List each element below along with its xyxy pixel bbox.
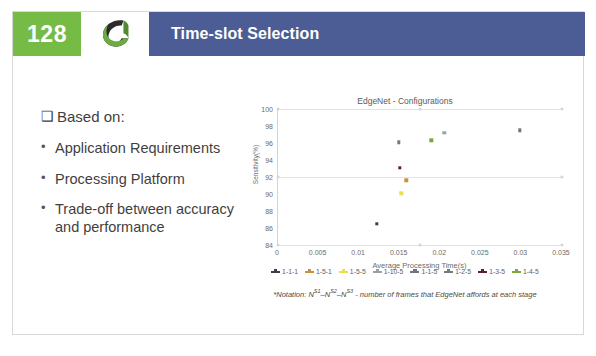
footnote: *Notation: NS1–NS2–NS3 - number of frame… (237, 288, 573, 299)
title-bar: Time-slot Selection (149, 12, 585, 56)
y-tick-label: 94 (265, 157, 273, 164)
legend-swatch-icon (444, 271, 453, 273)
list-item: • Application Requirements (41, 139, 237, 157)
legend-swatch-icon (512, 271, 521, 273)
legend-swatch-icon (373, 271, 382, 273)
legend-item[interactable]: 1-2-5 (444, 268, 471, 275)
data-point (375, 222, 378, 225)
y-tick-label: 86 (265, 225, 273, 232)
page-title: Time-slot Selection (149, 25, 319, 43)
legend-label: 1-10-5 (384, 268, 404, 275)
legend-item[interactable]: 1-4-5 (512, 268, 539, 275)
chart-title: EdgeNet - Configurations (237, 96, 573, 106)
legend-label: 1-1-5 (421, 268, 437, 275)
dot-bullet-icon: • (41, 200, 55, 217)
x-tick-label: 0.02 (432, 249, 446, 256)
axis-marker (277, 108, 280, 111)
legend-label: 1-2-5 (455, 268, 471, 275)
axis-marker (561, 108, 564, 111)
axis-marker (561, 244, 564, 247)
footnote-dash-2: –N (337, 290, 347, 299)
axis-marker (277, 244, 280, 247)
legend-swatch-icon (271, 271, 280, 273)
legend-label: 1-1-1 (282, 268, 298, 275)
data-point (400, 191, 403, 194)
footnote-suffix: - number of frames that EdgeNet affords … (353, 290, 536, 299)
y-tick-label: 92 (265, 174, 273, 181)
x-tick-label: 0.03 (514, 249, 528, 256)
legend-marker-icon (308, 269, 311, 272)
x-axis-ticks: 00.0050.010.0150.020.0250.030.035 (277, 249, 562, 261)
legend-swatch-icon (305, 271, 314, 273)
data-point (518, 129, 521, 132)
slide-number-badge: 128 (13, 12, 81, 56)
legend-item[interactable]: 1-5-5 (339, 268, 366, 275)
legend-label: 1-3-5 (489, 268, 505, 275)
legend-label: 1-5-1 (316, 268, 332, 275)
bullet-list: ❑ Based on: • Application Requirements •… (41, 108, 237, 248)
legend-marker-icon (515, 269, 518, 272)
x-tick-label: 0 (275, 249, 279, 256)
slide-header: 128 Time-slot Selection (13, 12, 585, 56)
data-point (398, 166, 401, 169)
logo-container (81, 12, 149, 56)
axis-marker (419, 108, 422, 111)
list-item: • Trade-off between accuracy and perform… (41, 200, 237, 237)
lead-bullet: ❑ Based on: (41, 108, 237, 126)
x-tick-label: 0.035 (552, 249, 570, 256)
data-point (430, 139, 433, 142)
data-point (443, 131, 446, 134)
legend-swatch-icon (478, 271, 487, 273)
legend-swatch-icon (339, 271, 348, 273)
legend-marker-icon (342, 269, 345, 272)
data-point (405, 179, 408, 182)
legend-item[interactable]: 1-5-1 (305, 268, 332, 275)
legend-item[interactable]: 1-10-5 (373, 268, 404, 275)
legend-marker-icon (376, 269, 379, 272)
gridline (278, 177, 562, 178)
axis-marker (419, 244, 422, 247)
footnote-sup-1: S1 (314, 288, 321, 294)
data-point (397, 140, 400, 143)
y-tick-label: 90 (265, 191, 273, 198)
axis-marker (277, 176, 280, 179)
square-bullet-icon: ❑ (41, 108, 54, 124)
axis-marker (561, 176, 564, 179)
slide-number-text: 128 (27, 23, 67, 46)
y-tick-label: 84 (265, 242, 273, 249)
slide-canvas: 128 Time-slot Selection ❑ Based on: • Ap… (12, 11, 584, 335)
list-item-label: Processing Platform (55, 170, 237, 188)
y-tick-label: 96 (265, 140, 273, 147)
y-axis-ticks: 8486889092949698100 (251, 109, 273, 245)
chart-panel: EdgeNet - Configurations Sensitivity(%) … (237, 96, 573, 318)
legend-label: 1-4-5 (523, 268, 539, 275)
dot-bullet-icon: • (41, 139, 55, 156)
y-tick-label: 98 (265, 123, 273, 130)
legend-marker-icon (481, 269, 484, 272)
swirl-ribbon-logo-icon (98, 18, 132, 50)
legend-swatch-icon (410, 271, 419, 273)
x-tick-label: 0.01 (351, 249, 365, 256)
x-tick-label: 0.015 (390, 249, 408, 256)
legend-item[interactable]: 1-1-5 (410, 268, 437, 275)
x-tick-label: 0.025 (471, 249, 489, 256)
plot-wrapper: Sensitivity(%) 8486889092949698100 00.00… (237, 109, 573, 259)
chart-legend: 1-1-11-5-11-5-51-10-51-1-51-2-51-3-51-4-… (237, 268, 573, 275)
plot-area (277, 109, 562, 245)
list-item: • Processing Platform (41, 170, 237, 188)
x-tick-label: 0.005 (309, 249, 327, 256)
y-tick-label: 88 (265, 208, 273, 215)
footnote-dash-1: –N (321, 290, 331, 299)
lead-bullet-label: Based on: (57, 108, 125, 126)
legend-marker-icon (447, 269, 450, 272)
legend-item[interactable]: 1-1-1 (271, 268, 298, 275)
legend-label: 1-5-5 (350, 268, 366, 275)
legend-item[interactable]: 1-3-5 (478, 268, 505, 275)
legend-marker-icon (274, 269, 277, 272)
list-item-label: Trade-off between accuracy and performan… (55, 200, 237, 237)
footnote-sup-2: S2 (330, 288, 337, 294)
legend-marker-icon (413, 269, 416, 272)
footnote-prefix: *Notation: N (273, 290, 313, 299)
list-item-label: Application Requirements (55, 139, 237, 157)
dot-bullet-icon: • (41, 170, 55, 187)
